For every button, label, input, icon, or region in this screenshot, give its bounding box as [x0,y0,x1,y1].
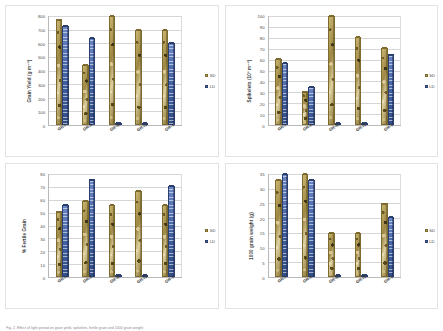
bar-sd-gr-iii [109,16,116,125]
bar-ld-gr-v [168,186,175,277]
bar-top-face [356,36,361,38]
bar-top-face [303,173,308,175]
bar-groups [49,16,182,125]
chart-grain-yield: Grain Yield (g m⁻²) 01002003004005006007… [6,6,218,156]
bar-ld-gr-ii [308,180,315,277]
y-tick-label: 35 [260,172,265,177]
bar-group [302,174,315,277]
plot-frame [268,174,402,278]
y-tick-label: 10 [260,113,265,118]
bar-group [275,16,288,125]
y-tick-label: 10 [40,263,45,268]
bar-top-face [309,86,314,88]
bar-top-face [276,179,281,181]
legend-item-ld: LD [425,239,435,244]
y-tick-label: 20 [40,250,45,255]
bar-top-face [163,204,168,206]
y-tick-label: 600 [38,41,45,46]
plot-frame [48,174,182,278]
y-tick-label: 60 [40,198,45,203]
bar-top-face [283,173,288,175]
legend-item-sd: SD [425,73,435,78]
bar-group [381,174,394,277]
y-tick-label: 25 [260,201,265,206]
y-tick-label: 700 [38,27,45,32]
legend-label-ld: LD [210,239,215,244]
y-tick-label: 300 [38,82,45,87]
bar-group [162,174,175,277]
bar-group [381,16,394,125]
plot-area: 01020304050607080 GR-IGR-IIGR-IIIGR-IVGR… [36,174,182,278]
plot-area: 0102030405060708090100 GR-IGR-IIGR-IIIGR… [256,16,402,126]
legend: SD LD [205,228,215,244]
bar-top-face [309,179,314,181]
bar-ld-gr-ii [308,87,315,125]
legend-item-ld: LD [425,84,435,89]
bar-top-face [110,15,115,17]
bar-top-face [163,29,168,31]
y-tick-label: 20 [260,216,265,221]
bar-top-face [382,203,387,205]
bar-top-face [382,47,387,49]
x-axis-labels: GR-IGR-IIGR-IIIGR-IVGR-V [48,277,182,289]
y-tick-label: 50 [40,211,45,216]
y-tick-label: 30 [40,237,45,242]
chart-spikelets: Spikelets (10³ m⁻²) 01020304050607080901… [226,6,438,156]
bar-groups [269,16,402,125]
legend-swatch-ld-icon [205,85,208,88]
y-tick-label: 400 [38,69,45,74]
y-axis-label: Grain Yield (g m⁻²) [27,60,32,103]
y-tick-label: 80 [260,36,265,41]
y-tick-label: 40 [260,80,265,85]
x-axis-labels: GR-IGR-IIGR-IIIGR-IVGR-V [268,277,402,289]
bar-top-face [83,64,88,66]
bar-top-face [63,25,68,27]
legend-item-ld: LD [205,84,215,89]
y-tick-label: 50 [260,69,265,74]
y-tick-label: 90 [260,25,265,30]
y-tick-label: 0 [43,276,45,281]
bar-ld-gr-v [388,217,395,277]
y-axis-label: Spikelets (10³ m⁻²) [246,60,251,103]
bar-top-face [136,190,141,192]
bar-sd-gr-iii [328,16,335,125]
bar-groups [269,174,402,277]
y-tick-label: 100 [258,14,265,19]
bar-top-face [389,54,394,56]
bar-top-face [303,91,308,93]
y-tick-label: 20 [260,102,265,107]
legend-swatch-ld-icon [425,85,428,88]
legend: SD LD [425,228,435,244]
bar-group [355,16,368,125]
bar-top-face [276,58,281,60]
bar-sd-gr-iv [355,233,362,277]
bar-top-face [57,19,62,21]
y-axis-ticks: 0102030405060708090100 [255,16,267,126]
y-tick-label: 70 [40,185,45,190]
bar-sd-gr-iii [109,205,116,277]
bar-group [275,174,288,277]
y-tick-label: 30 [260,91,265,96]
legend-item-ld: LD [205,239,215,244]
plot-frame [268,16,402,126]
y-tick-label: 60 [260,58,265,63]
legend-label-sd: SD [429,73,435,78]
bar-ld-gr-v [168,43,175,125]
chart-panel-grain-weight: 1000 grain weight (g) 05101520253035 GR-… [225,163,439,309]
bar-top-face [169,185,174,187]
legend-swatch-sd-icon [425,74,428,77]
y-tick-label: 500 [38,55,45,60]
legend-label-ld: LD [429,84,434,89]
y-axis-ticks: 01020304050607080 [35,174,47,278]
bar-ld-gr-i [282,174,289,277]
legend-swatch-sd-icon [425,229,428,232]
legend: SD LD [205,73,215,89]
bar-top-face [63,204,68,206]
legend-item-sd: SD [205,73,215,78]
bar-sd-gr-iv [135,30,142,125]
bar-top-face [57,211,62,213]
bar-top-face [110,204,115,206]
bar-top-face [389,216,394,218]
y-axis-label: 1000 grain weight (g) [249,212,254,260]
legend-swatch-ld-icon [205,240,208,243]
